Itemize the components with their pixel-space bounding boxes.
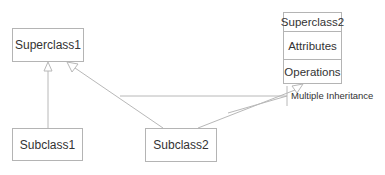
hollow-triangle-arrowhead-icon [44,62,52,71]
uml-diagram-canvas: Superclass1 Superclass2 Attributes Opera… [0,0,385,175]
class-name-compartment: Superclass2 [284,13,341,31]
multiple-inheritance-note: Multiple Inheritance [291,90,373,101]
attributes-compartment: Attributes [284,31,341,59]
class-name: Subclass1 [20,138,75,152]
class-subclass2[interactable]: Subclass2 [145,128,217,162]
class-superclass2[interactable]: Superclass2 Attributes Operations [283,12,342,84]
operations-label: Operations [284,66,340,78]
class-subclass1[interactable]: Subclass1 [12,128,83,161]
note-connector-diagonal [228,96,287,113]
class-superclass1[interactable]: Superclass1 [12,28,84,62]
generalization-line-subclass2-to-superclass1 [75,68,163,128]
hollow-triangle-arrowhead-icon [67,62,78,72]
class-name: Subclass2 [153,138,208,152]
operations-compartment: Operations [284,59,341,83]
class-name: Superclass1 [15,38,81,52]
class-name: Superclass2 [281,16,344,28]
attributes-label: Attributes [288,40,337,52]
